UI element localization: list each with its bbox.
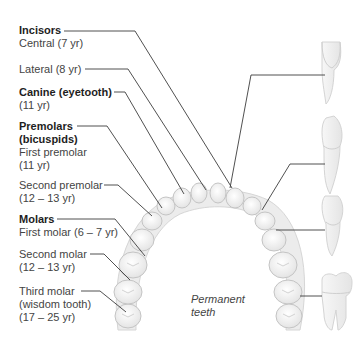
label-second-molar: Second molar (12 – 13 yr) — [19, 248, 87, 274]
label-third-molar: Third molar (wisdom tooth) (17 – 25 yr) — [19, 285, 91, 324]
label-heading: Canine (eyetooth) — [19, 86, 112, 99]
label-text: Second molar — [19, 248, 87, 261]
label-canine: Canine (eyetooth) (11 yr) — [19, 86, 112, 112]
leader-canine-side-arch — [262, 164, 290, 210]
label-heading: Incisors — [19, 24, 83, 37]
diagram-caption: Permanent teeth — [191, 293, 245, 319]
label-text: (12 – 13 yr) — [19, 192, 103, 205]
label-heading: Premolars — [19, 120, 87, 133]
label-second-premolar: Second premolar (12 – 13 yr) — [19, 179, 103, 205]
label-text: Second premolar — [19, 179, 103, 192]
label-text: Central (7 yr) — [19, 37, 83, 50]
label-heading-2: (bicuspids) — [19, 133, 87, 146]
premolar-tooth-side — [322, 196, 343, 256]
label-text: (11 yr) — [19, 159, 87, 172]
label-text: (12 – 13 yr) — [19, 261, 87, 274]
label-incisors: Incisors Central (7 yr) — [19, 24, 83, 50]
label-premolars: Premolars (bicuspids) First premolar (11… — [19, 120, 87, 172]
leader-canine — [114, 92, 184, 194]
caption-line: Permanent — [191, 293, 245, 306]
label-text: (11 yr) — [19, 99, 112, 112]
label-text: First premolar — [19, 146, 87, 159]
label-heading: Molars — [19, 213, 118, 226]
leader-incisor-side-arch — [230, 75, 251, 188]
label-molars: Molars First molar (6 – 7 yr) — [19, 213, 118, 239]
label-text: (17 – 25 yr) — [19, 311, 91, 324]
label-text: Lateral (8 yr) — [19, 63, 81, 76]
incisor-tooth-side — [322, 42, 341, 104]
label-lateral: Lateral (8 yr) — [19, 63, 81, 76]
leader-second-premolar — [104, 185, 152, 216]
molar-tooth-side — [322, 273, 352, 330]
label-text: Third molar — [19, 285, 91, 298]
label-text: (wisdom tooth) — [19, 298, 91, 311]
caption-line: teeth — [191, 306, 245, 319]
label-text: First molar (6 – 7 yr) — [19, 226, 118, 239]
canine-tooth-side — [322, 116, 342, 194]
